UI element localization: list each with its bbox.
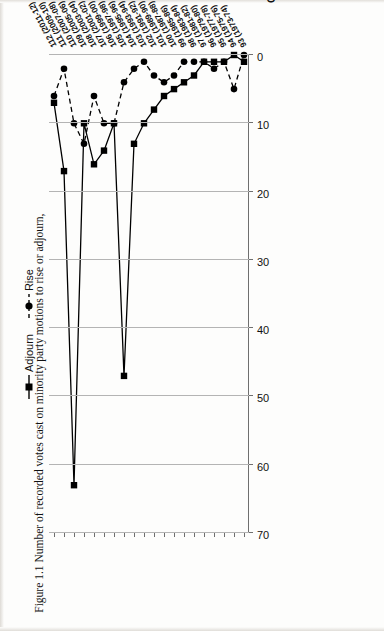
data-point-adjourn-5 bbox=[101, 147, 107, 153]
data-point-rise-10 bbox=[151, 72, 158, 79]
category-tick bbox=[74, 533, 75, 537]
category-tick bbox=[134, 533, 135, 537]
data-point-rise-16 bbox=[211, 65, 218, 72]
series-line-adjourn bbox=[54, 55, 244, 485]
data-point-adjourn-11 bbox=[161, 93, 167, 99]
data-point-adjourn-12 bbox=[171, 86, 177, 92]
category-tick bbox=[194, 533, 195, 537]
data-point-adjourn-4 bbox=[91, 161, 97, 167]
data-point-rise-2 bbox=[71, 120, 78, 127]
data-point-rise-15 bbox=[201, 59, 208, 66]
gridline bbox=[49, 464, 249, 465]
value-tick bbox=[249, 54, 253, 55]
value-tick bbox=[249, 191, 253, 192]
data-point-rise-4 bbox=[91, 93, 98, 100]
gridline bbox=[49, 395, 249, 396]
category-tick bbox=[104, 533, 105, 537]
value-axis-label: 40 bbox=[257, 324, 269, 336]
data-point-rise-7 bbox=[121, 79, 128, 86]
category-tick bbox=[114, 533, 115, 537]
data-point-rise-11 bbox=[161, 79, 168, 86]
data-point-rise-1 bbox=[61, 65, 68, 72]
data-point-rise-3 bbox=[81, 140, 88, 147]
data-point-adjourn-7 bbox=[121, 373, 127, 379]
axis-title-congress: Congress (Years) bbox=[265, 0, 277, 3]
gridline bbox=[49, 259, 249, 260]
value-tick bbox=[249, 532, 253, 533]
data-point-rise-8 bbox=[131, 65, 138, 72]
gridline bbox=[49, 122, 249, 123]
value-tick bbox=[249, 122, 253, 123]
data-point-adjourn-14 bbox=[191, 72, 197, 78]
data-point-adjourn-18 bbox=[231, 52, 237, 58]
value-axis-label: 50 bbox=[257, 392, 269, 404]
category-tick bbox=[54, 533, 55, 537]
value-tick bbox=[249, 327, 253, 328]
category-tick bbox=[64, 533, 65, 537]
category-tick bbox=[124, 533, 125, 537]
category-tick bbox=[204, 533, 205, 537]
gridline bbox=[49, 532, 249, 533]
gridline bbox=[49, 54, 249, 55]
category-tick bbox=[234, 533, 235, 537]
category-tick bbox=[164, 533, 165, 537]
category-tick bbox=[144, 533, 145, 537]
plot-area bbox=[49, 55, 249, 533]
value-axis-label: 60 bbox=[257, 461, 269, 473]
category-tick bbox=[224, 533, 225, 537]
data-point-rise-6 bbox=[111, 120, 118, 127]
data-point-rise-9 bbox=[141, 59, 148, 66]
category-tick bbox=[244, 533, 245, 537]
value-tick bbox=[249, 464, 253, 465]
data-point-rise-13 bbox=[181, 59, 188, 66]
figure-page: Adjourn Rise 0102030 bbox=[0, 0, 384, 631]
value-tick bbox=[249, 259, 253, 260]
data-point-adjourn-2 bbox=[71, 482, 77, 488]
value-axis-label: 30 bbox=[257, 256, 269, 268]
gridline bbox=[49, 327, 249, 328]
category-tick bbox=[94, 533, 95, 537]
value-axis-label: 10 bbox=[257, 119, 269, 131]
data-point-rise-12 bbox=[171, 72, 178, 79]
category-tick bbox=[174, 533, 175, 537]
data-point-adjourn-1 bbox=[61, 168, 67, 174]
data-point-rise-5 bbox=[101, 120, 108, 127]
value-axis-label: 0 bbox=[257, 51, 263, 63]
value-axis-label: 20 bbox=[257, 188, 269, 200]
data-point-rise-18 bbox=[231, 86, 238, 93]
gridline bbox=[49, 191, 249, 192]
category-tick bbox=[154, 533, 155, 537]
category-tick bbox=[214, 533, 215, 537]
line-chart: Adjourn Rise 0102030 bbox=[27, 35, 357, 595]
data-point-adjourn-8 bbox=[131, 141, 137, 147]
data-point-adjourn-3 bbox=[81, 120, 87, 126]
figure-caption: Figure 1.1 Number of recorded votes cast… bbox=[32, 313, 48, 613]
data-point-adjourn-0 bbox=[51, 100, 57, 106]
chart-area: Adjourn Rise 0102030 bbox=[27, 35, 295, 595]
data-point-rise-0 bbox=[51, 93, 58, 100]
category-tick bbox=[184, 533, 185, 537]
rotated-figure-wrapper: Adjourn Rise 0102030 bbox=[0, 0, 384, 631]
data-point-adjourn-13 bbox=[181, 79, 187, 85]
data-point-rise-14 bbox=[191, 59, 198, 66]
data-point-adjourn-16 bbox=[211, 59, 217, 65]
value-tick bbox=[249, 395, 253, 396]
data-point-adjourn-9 bbox=[141, 120, 147, 126]
value-axis-label: 70 bbox=[257, 529, 269, 541]
data-point-adjourn-10 bbox=[151, 106, 157, 112]
category-tick bbox=[84, 533, 85, 537]
data-point-rise-17 bbox=[221, 59, 228, 66]
series-lines bbox=[49, 55, 249, 533]
